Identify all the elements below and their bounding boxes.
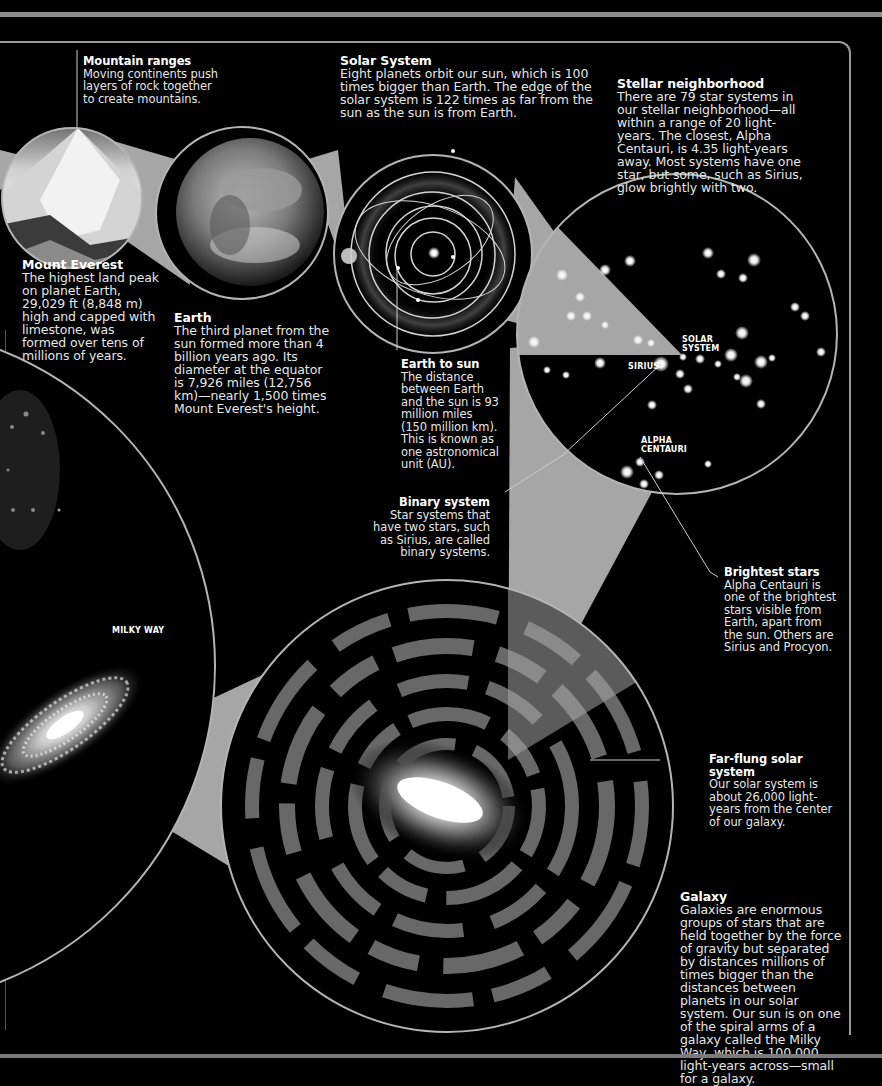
solar-system-label: Solar System Eight planets orbit our sun… [340, 54, 610, 119]
mount-everest-label: Mount Everest The highest land peak on p… [22, 258, 162, 362]
binary-system-text: Star systems that have two stars, such a… [373, 508, 490, 560]
brightest-stars-text: Alpha Centauri is one of the brightest s… [724, 578, 836, 655]
solar-system-tag: SOLAR SYSTEM [682, 335, 719, 353]
earth-image [176, 138, 324, 286]
bottom-band [0, 1054, 882, 1058]
stellar-neighborhood-text: There are 79 star systems in our stellar… [617, 89, 803, 195]
mountain-ranges-text: Moving continents push layers of rock to… [83, 67, 218, 106]
alpha-centauri-tag: ALPHA CENTAURI [641, 436, 687, 454]
solar-system-text: Eight planets orbit our sun, which is 10… [340, 66, 593, 120]
sirius-tag: SIRIUS [628, 362, 659, 371]
binary-system-label: Binary system Star systems that have two… [362, 496, 490, 559]
earth-to-sun-label: Earth to sun The distance between Earth … [401, 358, 501, 471]
mount-everest-text: The highest land peak on planet Earth, 2… [22, 270, 159, 363]
mountain-ranges-label: Mountain ranges Moving continents push l… [83, 55, 223, 105]
far-flung-text: Our solar system is about 26,000 light-y… [709, 777, 832, 829]
stellar-neighborhood-label: Stellar neighborhood There are 79 star s… [617, 77, 807, 194]
sun-icon [428, 247, 440, 259]
galaxy-text: Galaxies are enormous groups of stars th… [680, 902, 841, 1086]
milky-way-tag: MILKY WAY [112, 626, 164, 635]
far-flung-title: Far-flung solar system [709, 753, 839, 778]
earth-text: The third planet from the sun formed mor… [174, 323, 329, 416]
earth-to-sun-text: The distance between Earth and the sun i… [401, 370, 499, 472]
far-flung-label: Far-flung solar system Our solar system … [709, 753, 839, 828]
big-left-circle [0, 326, 215, 1006]
planet-icon [341, 248, 357, 264]
brightest-stars-label: Brightest stars Alpha Centauri is one of… [724, 566, 839, 654]
earth-label: Earth The third planet from the sun form… [174, 311, 332, 415]
